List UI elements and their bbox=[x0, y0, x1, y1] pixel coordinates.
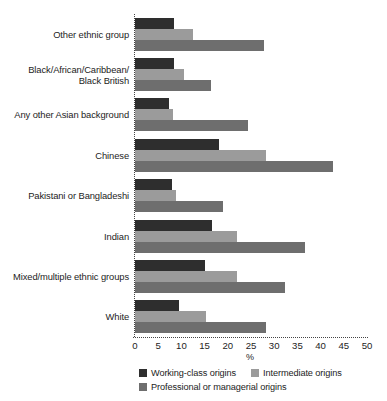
category-label-line: Black British bbox=[0, 75, 129, 86]
x-tick-label-0: 0 bbox=[132, 340, 137, 351]
legend-row-2: Professional or managerial origins bbox=[139, 380, 387, 394]
bar-group bbox=[135, 98, 367, 131]
category-label-line: Indian bbox=[0, 231, 129, 242]
category-label-line: Pakistani or Bangladeshi bbox=[0, 190, 129, 201]
bar-group bbox=[135, 58, 367, 91]
legend-label-intermediate-origins: Intermediate origins bbox=[263, 368, 342, 378]
bar-group bbox=[135, 220, 367, 253]
bar bbox=[135, 201, 223, 212]
bar bbox=[135, 161, 333, 172]
bar bbox=[135, 109, 173, 120]
bar-group bbox=[135, 179, 367, 212]
bar bbox=[135, 98, 169, 109]
x-tick-label-25: 25 bbox=[246, 340, 257, 351]
x-tick-label-35: 35 bbox=[292, 340, 303, 351]
bar bbox=[135, 322, 266, 333]
bar-group bbox=[135, 300, 367, 333]
bar bbox=[135, 271, 237, 282]
category-label: Other ethnic group bbox=[0, 29, 129, 40]
bar bbox=[135, 150, 266, 161]
x-tick-label-20: 20 bbox=[222, 340, 233, 351]
bar-group bbox=[135, 139, 367, 172]
legend-label-professional-managerial-origins: Professional or managerial origins bbox=[151, 382, 287, 392]
bar bbox=[135, 190, 176, 201]
x-tick-label-40: 40 bbox=[315, 340, 326, 351]
bar bbox=[135, 139, 219, 150]
legend-swatch-working-class-origins bbox=[139, 369, 147, 377]
category-label-line: Chinese bbox=[0, 150, 129, 161]
plot-area bbox=[135, 14, 367, 337]
category-label-line: Any other Asian background bbox=[0, 109, 129, 120]
category-label: Any other Asian background bbox=[0, 109, 129, 120]
legend-swatch-intermediate-origins bbox=[251, 369, 259, 377]
category-label-line: Mixed/multiple ethnic groups bbox=[0, 271, 129, 282]
x-tick-label-50: 50 bbox=[362, 340, 373, 351]
category-label: Chinese bbox=[0, 150, 129, 161]
legend-row-1: Working-class origins Intermediate origi… bbox=[139, 366, 387, 380]
category-label: Mixed/multiple ethnic groups bbox=[0, 271, 129, 282]
x-axis-dotted-line bbox=[133, 337, 368, 338]
legend-item-professional-managerial-origins: Professional or managerial origins bbox=[139, 382, 287, 392]
x-tick-label-30: 30 bbox=[269, 340, 280, 351]
x-tick-label-45: 45 bbox=[338, 340, 349, 351]
bar bbox=[135, 40, 264, 51]
x-tick-label-10: 10 bbox=[176, 340, 187, 351]
bar bbox=[135, 69, 184, 80]
category-label-line: Black/African/Caribbean/ bbox=[0, 64, 129, 75]
x-axis-title-text: % bbox=[246, 352, 254, 362]
bar-group bbox=[135, 18, 367, 51]
bar-group bbox=[135, 260, 367, 293]
category-label: Black/African/Caribbean/Black British bbox=[0, 64, 129, 86]
bar bbox=[135, 80, 211, 91]
category-label-line: Other ethnic group bbox=[0, 29, 129, 40]
ethnicity-class-origins-bar-chart: Other ethnic groupBlack/African/Caribbea… bbox=[0, 0, 387, 401]
legend-item-working-class-origins: Working-class origins bbox=[139, 368, 251, 378]
bar bbox=[135, 179, 172, 190]
bar bbox=[135, 282, 285, 293]
bar bbox=[135, 120, 248, 131]
legend-item-intermediate-origins: Intermediate origins bbox=[251, 368, 342, 378]
bar bbox=[135, 58, 174, 69]
legend-swatch-professional-managerial-origins bbox=[139, 383, 147, 391]
category-label: Pakistani or Bangladeshi bbox=[0, 190, 129, 201]
chart-legend: Working-class origins Intermediate origi… bbox=[139, 366, 387, 394]
bar bbox=[135, 242, 305, 253]
bar bbox=[135, 18, 174, 29]
bar bbox=[135, 29, 193, 40]
bar bbox=[135, 220, 212, 231]
x-tick-label-15: 15 bbox=[199, 340, 210, 351]
category-label-line: White bbox=[0, 311, 129, 322]
category-label: Indian bbox=[0, 231, 129, 242]
bar bbox=[135, 231, 237, 242]
bar bbox=[135, 311, 206, 322]
category-label: White bbox=[0, 311, 129, 322]
legend-label-working-class-origins: Working-class origins bbox=[151, 368, 236, 378]
bar bbox=[135, 300, 179, 311]
x-tick-label-5: 5 bbox=[156, 340, 161, 351]
x-axis-title: % bbox=[0, 352, 387, 362]
category-axis-labels: Other ethnic groupBlack/African/Caribbea… bbox=[0, 14, 132, 337]
bar bbox=[135, 260, 205, 271]
